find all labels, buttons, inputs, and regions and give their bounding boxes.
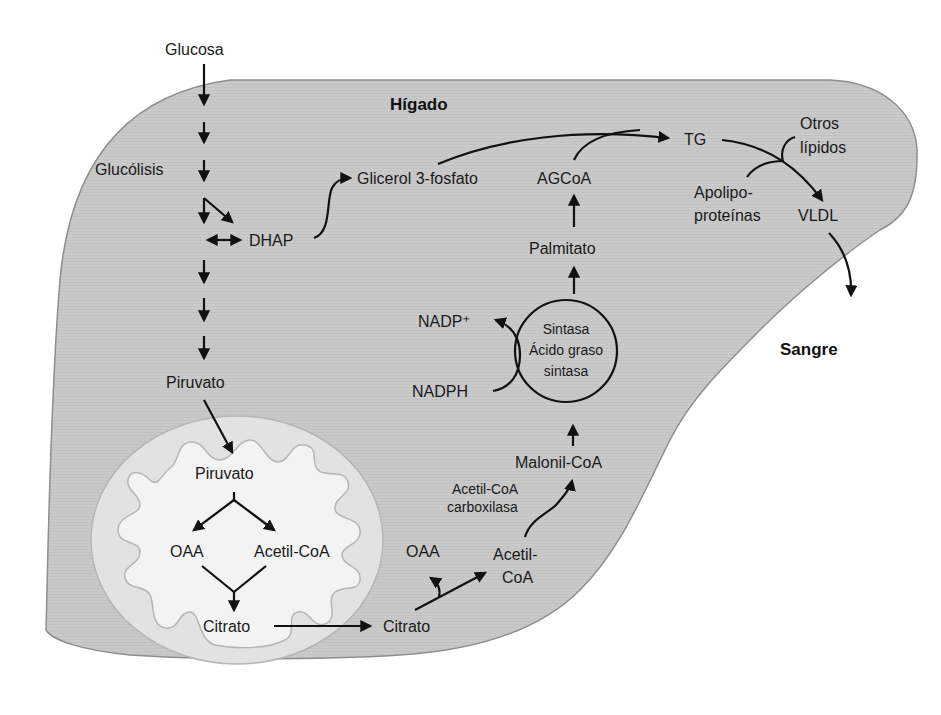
acetyl-coa-cytosol-label-2: CoA [502,569,533,586]
vldl-label: VLDL [798,207,838,224]
agcoa-label: AGCoA [537,170,592,187]
nadph-label: NADPH [412,383,468,400]
blood-label: Sangre [780,340,838,359]
glycolysis-label: Glucólisis [95,161,163,178]
nadp-plus-label: NADP⁺ [418,313,470,330]
other-lipids-label-2: lípidos [800,139,846,156]
fas-label-3: sintasa [544,363,589,379]
liver-label: Hígado [390,95,448,114]
oaa-mito-label: OAA [170,543,204,560]
acc-enzyme-label-1: Acetil-CoA [452,481,519,497]
apolipoproteins-label-2: proteínas [694,207,761,224]
glucose-label: Glucosa [165,41,224,58]
glycerol-3-phosphate-label: Glicerol 3-fosfato [357,170,478,187]
citrate-mito-label: Citrato [203,618,250,635]
palmitate-label: Palmitato [529,240,596,257]
fas-label-1: Sintasa [543,321,590,337]
pyruvate-cytosol-label: Piruvato [166,374,225,391]
fas-label-2: Ácido graso [529,342,603,358]
dhap-label: DHAP [249,232,293,249]
acetyl-coa-mito-label: Acetil-CoA [254,543,330,560]
oaa-cytosol-label: OAA [406,543,440,560]
apolipoproteins-label-1: Apolipo- [694,184,753,201]
other-lipids-label-1: Otros [800,115,839,132]
tg-label: TG [684,131,706,148]
acc-enzyme-label-2: carboxilasa [447,499,518,515]
acetyl-coa-cytosol-label-1: Acetil- [493,546,537,563]
pyruvate-mito-label: Piruvato [195,465,254,482]
malonyl-coa-label: Malonil-CoA [515,454,602,471]
pathway-diagram: Glucosa Hígado Glucólisis DHAP Glicerol … [0,0,941,715]
citrate-cytosol-label: Citrato [383,618,430,635]
